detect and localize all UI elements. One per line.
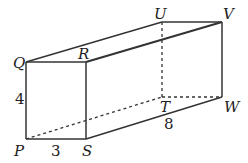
- label-T: T: [160, 98, 171, 116]
- label-W: W: [224, 98, 241, 116]
- label-Q: Q: [13, 54, 25, 72]
- label-P: P: [13, 142, 25, 160]
- edge-RV: [86, 22, 222, 62]
- dimension-width: 3: [51, 142, 61, 160]
- label-U: U: [154, 5, 168, 23]
- label-V: V: [223, 5, 236, 23]
- edge-SW: [86, 97, 222, 139]
- dimension-length: 8: [164, 115, 174, 133]
- label-R: R: [77, 45, 89, 63]
- edge-PT: [26, 97, 162, 139]
- prism-diagram: Q R U V P S T W 4 3 8: [0, 0, 248, 163]
- dimension-height: 4: [15, 90, 25, 108]
- label-S: S: [82, 142, 92, 160]
- edge-QU: [26, 22, 162, 62]
